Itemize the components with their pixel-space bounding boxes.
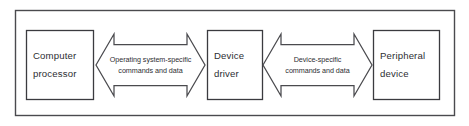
device-driver-label-line2: driver [214,68,240,79]
connector-driver-to-peripheral-label-line2: commands and data [285,66,349,75]
peripheral-device-label-line2: device [380,68,409,79]
device-driver-label-line1: Device [214,50,244,61]
device-driver-box [208,31,263,100]
diagram-canvas: Computer processor Operating system-spec… [0,0,469,126]
computer-processor-label-line1: Computer [33,50,77,61]
peripheral-device-label-line1: Peripheral [380,50,425,61]
connector-processor-to-driver-label-line2: commands and data [118,66,182,75]
connector-driver-to-peripheral-label-line1: Device-specific [294,55,342,64]
connector-processor-to-driver-label-line1: Operating system-specific [110,55,192,64]
peripheral-device-box [374,31,440,100]
node-computer-processor: Computer processor [27,31,94,100]
computer-processor-box [27,31,94,100]
device-driver-diagram: Computer processor Operating system-spec… [0,0,469,126]
computer-processor-label-line2: processor [33,68,77,79]
node-peripheral-device: Peripheral device [374,31,440,100]
node-device-driver: Device driver [208,31,263,100]
